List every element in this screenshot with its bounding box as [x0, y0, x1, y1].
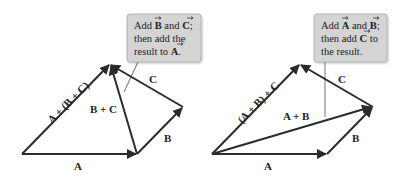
- left-diagram: Add B and C; then add the result to A. A…: [22, 14, 201, 172]
- right-label-b: B: [352, 132, 360, 144]
- right-label-sum: (A + B) + C: [235, 79, 282, 126]
- vector-addition-diagram: Add B and C; then add the result to A. A…: [0, 0, 404, 178]
- right-diagram: Add A and B; then add C to the result. A…: [212, 14, 387, 172]
- left-label-c: C: [149, 73, 157, 85]
- right-label-a-plus-b: A + B: [283, 110, 310, 122]
- right-label-c: C: [338, 73, 346, 85]
- right-vector-b: [327, 108, 372, 154]
- left-label-a: A: [74, 160, 82, 172]
- left-label-b-plus-c: B + C: [90, 103, 117, 115]
- left-label-b: B: [164, 132, 172, 144]
- left-label-sum: A + (B + C): [45, 79, 92, 126]
- right-label-a: A: [264, 160, 272, 172]
- left-vector-b: [137, 108, 182, 154]
- right-vector-c: [301, 65, 373, 107]
